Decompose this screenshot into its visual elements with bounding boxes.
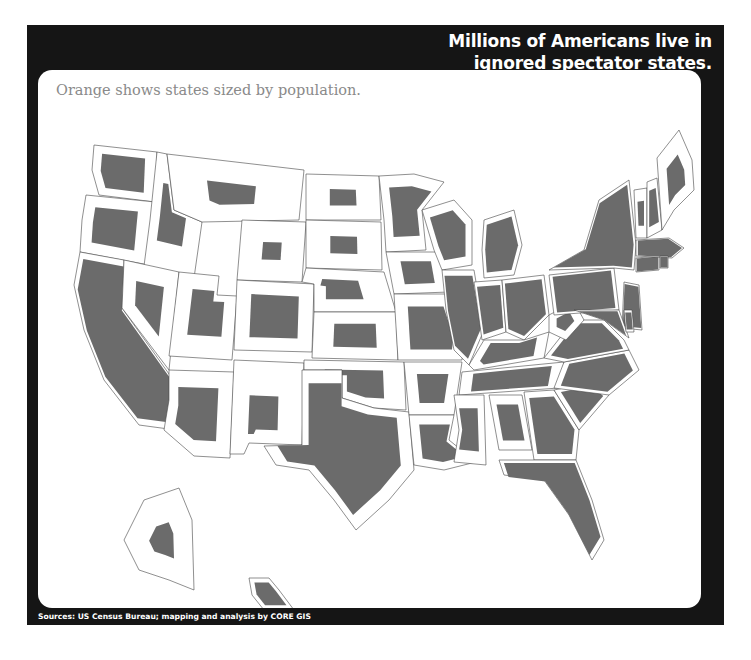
state-maine (657, 130, 694, 230)
population-shape (333, 324, 376, 348)
state-colorado (234, 280, 314, 352)
state-new-york (549, 180, 636, 270)
population-shape (660, 257, 667, 268)
population-shape (401, 261, 435, 284)
state-delaware (624, 310, 634, 332)
population-shape (320, 279, 363, 299)
state-connecticut (636, 256, 659, 272)
population-shape (638, 201, 645, 226)
population-shape (249, 294, 298, 338)
state-arkansas (404, 362, 462, 415)
state-montana (167, 154, 304, 222)
population-shape (504, 463, 601, 555)
us-cartogram-map (38, 70, 701, 608)
state-new-mexico (230, 360, 304, 454)
population-shape (637, 257, 658, 272)
state-rhode-island (660, 256, 668, 268)
state-wyoming (237, 220, 306, 282)
state-alaska (124, 488, 194, 590)
graphic-frame: Millions of Americans live in ignored sp… (27, 25, 724, 625)
state-south-dakota (306, 220, 382, 270)
state-massachusetts (636, 238, 684, 258)
population-shape (248, 395, 278, 434)
population-shape (262, 242, 282, 260)
state-pennsylvania (549, 268, 619, 315)
state-kansas (312, 312, 398, 360)
population-shape (330, 189, 357, 205)
headline-line-1: Millions of Americans live in (292, 30, 712, 52)
headline: Millions of Americans live in ignored sp… (292, 30, 712, 74)
population-shape (505, 279, 546, 336)
state-arizona (164, 370, 234, 458)
state-mississippi (454, 395, 486, 465)
state-ohio (502, 275, 549, 340)
state-vermont (634, 188, 647, 238)
state-michigan (482, 210, 522, 278)
population-shape (554, 185, 634, 268)
state-washington (92, 145, 157, 202)
state-hawaii (249, 578, 294, 608)
state-florida (499, 460, 604, 560)
population-shape (101, 154, 145, 193)
map-panel: Orange shows states sized by population. (38, 70, 701, 608)
population-shape (553, 271, 616, 313)
state-utah (169, 272, 237, 360)
population-shape (330, 236, 357, 254)
state-nebraska (302, 268, 396, 312)
source-credit: Sources: US Census Bureau; mapping and a… (38, 612, 311, 621)
state-north-dakota (306, 174, 381, 220)
population-shape (417, 374, 449, 403)
